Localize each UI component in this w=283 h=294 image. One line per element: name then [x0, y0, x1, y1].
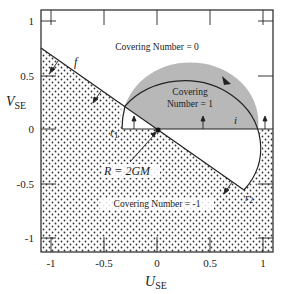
x-tick-label: 1	[260, 257, 266, 269]
region-label-one-line2: Number = 1	[167, 99, 213, 109]
x-tick-label: -0.5	[95, 257, 113, 269]
y-axis-title: VSE	[6, 94, 26, 111]
arc-r1	[122, 106, 125, 129]
small-i-label: i	[234, 114, 237, 126]
curve-f-label: f	[74, 55, 79, 69]
y-tick-label: -1	[25, 232, 34, 244]
x-tick-label: -1	[46, 257, 55, 269]
y-tick-label: 0.5	[20, 70, 34, 82]
x-tick-label: 0	[154, 257, 160, 269]
y-tick-label: 0	[29, 123, 35, 135]
horizon-label: R = 2GM	[103, 164, 151, 178]
region-label-zero: Covering Number = 0	[115, 42, 199, 52]
x-axis-title: USE	[145, 274, 167, 291]
x-tick-label: 0.5	[203, 257, 217, 269]
y-tick-label: 1	[29, 15, 35, 27]
covering-number-diagram: 1 0.5 0 -0.5 -1 -1 -0.5 0 0.5 1 USE VSE …	[0, 0, 283, 294]
y-tick-label: -0.5	[17, 178, 35, 190]
region-label-minus-one: Covering Number = -1	[114, 199, 201, 209]
region-label-one-line1: Covering	[172, 87, 208, 97]
